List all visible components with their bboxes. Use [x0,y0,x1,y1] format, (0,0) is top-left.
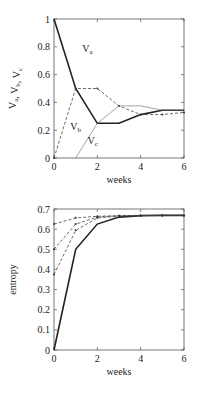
y-tick-label: 0 [45,153,50,164]
y-tick-label: 0.6 [38,69,51,80]
series-annotation: Vc [88,135,98,148]
chart-entropy: 024600.10.20.30.40.50.60.7weeksentropy [7,204,187,378]
x-tick-label: 4 [138,353,143,364]
y-tick-label: 0.2 [38,304,51,315]
y-tick-label: 0.5 [38,244,51,255]
svg-text:Va, Vb, Vc: Va, Vb, Vc [7,68,24,109]
x-tick-label: 6 [182,353,187,364]
y-tick-label: 0.4 [38,264,51,275]
y-tick-label: 0.1 [38,324,51,335]
x-tick-label: 2 [95,353,100,364]
x-tick-label: 2 [95,161,100,172]
y-tick-label: 0.2 [38,125,51,136]
series-line-series-1 [54,215,184,350]
plot-frame [54,209,184,350]
x-tick-label: 0 [52,353,57,364]
y-tick-label: 0.7 [38,204,51,215]
svg-text:entropy: entropy [7,264,18,295]
y-tick-label: 0.8 [38,41,51,52]
series-line-series-3 [54,215,184,249]
y-tick-label: 0.4 [38,97,51,108]
y-tick-label: 0.3 [38,284,51,295]
x-tick-label: 6 [182,161,187,172]
y-tick-label: 1 [45,14,50,25]
y-axis-label: entropy [7,264,18,295]
x-axis-label: weeks [107,174,132,185]
y-axis-label: Va, Vb, Vc [7,68,24,109]
x-axis-label: weeks [107,366,132,377]
chart-values: 024600.20.40.60.81weeksVa, Vb, VcVaVbVc [7,14,187,186]
series-line-va [54,19,184,123]
series-annotation: Vb [70,121,81,134]
y-tick-label: 0 [45,345,50,356]
figure: 024600.20.40.60.81weeksVa, Vb, VcVaVbVc0… [0,0,198,396]
series-line-series-2 [54,215,184,274]
y-tick-label: 0.6 [38,224,51,235]
series-annotation: Va [82,43,93,56]
plot-frame [54,19,184,158]
x-tick-label: 0 [52,161,57,172]
x-tick-label: 4 [138,161,143,172]
